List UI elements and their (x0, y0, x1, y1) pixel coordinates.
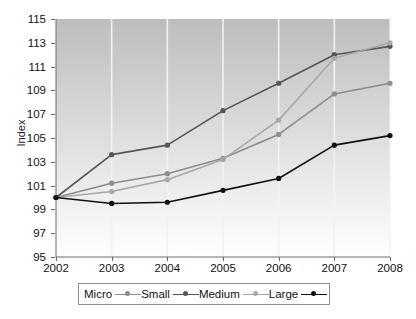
x-axis-tick-mark (279, 257, 280, 261)
x-axis-tick-mark (56, 257, 57, 261)
data-point-large (387, 133, 392, 138)
x-axis-tick-label: 2003 (84, 262, 140, 274)
data-point-small (220, 108, 225, 113)
data-point-micro (332, 91, 337, 96)
data-point-medium (165, 177, 170, 182)
x-axis-tick-mark (334, 257, 335, 261)
data-point-medium (276, 118, 281, 123)
data-point-large (276, 176, 281, 181)
data-point-small (109, 152, 114, 157)
legend-label: Medium (199, 288, 240, 300)
data-point-micro (276, 132, 281, 137)
legend-item-micro[interactable]: Micro (84, 288, 141, 300)
chart-legend: MicroSmallMediumLarge (78, 283, 330, 305)
data-point-large (53, 195, 58, 200)
line-chart: Index 115113111109107105103101999795 200… (0, 0, 416, 319)
legend-swatch-micro (115, 290, 141, 299)
data-point-micro (387, 81, 392, 86)
data-point-medium (332, 56, 337, 61)
legend-item-small[interactable]: Small (141, 288, 199, 300)
legend-swatch-small (173, 290, 199, 299)
data-point-micro (165, 171, 170, 176)
data-point-medium (387, 40, 392, 45)
legend-swatch-medium (243, 290, 269, 299)
x-axis-tick-label: 2002 (28, 262, 84, 274)
data-point-small (165, 143, 170, 148)
x-axis-tick-mark (167, 257, 168, 261)
data-point-large (220, 188, 225, 193)
x-axis-tick-mark (390, 257, 391, 261)
legend-label: Small (141, 288, 170, 300)
x-axis-tick-mark (223, 257, 224, 261)
x-axis-tick-mark (112, 257, 113, 261)
legend-label: Micro (84, 288, 112, 300)
data-point-large (109, 201, 114, 206)
x-axis-tick-label: 2005 (195, 262, 251, 274)
legend-swatch-large (301, 290, 327, 299)
data-point-medium (220, 157, 225, 162)
legend-item-medium[interactable]: Medium (199, 288, 269, 300)
legend-label: Large (269, 288, 298, 300)
data-point-small (276, 81, 281, 86)
data-point-large (332, 143, 337, 148)
data-point-micro (109, 181, 114, 186)
x-axis-tick-label: 2007 (306, 262, 362, 274)
data-point-large (165, 200, 170, 205)
legend-item-large[interactable]: Large (269, 288, 327, 300)
data-point-medium (109, 189, 114, 194)
x-axis-tick-label: 2008 (362, 262, 416, 274)
x-axis-tick-label: 2004 (139, 262, 195, 274)
x-axis-tick-label: 2006 (251, 262, 307, 274)
